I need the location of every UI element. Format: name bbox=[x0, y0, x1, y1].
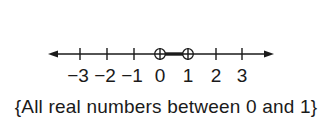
tick-label-1: 1 bbox=[183, 65, 194, 86]
tick-label-neg2: −2 bbox=[94, 65, 116, 86]
tick-label-2: 2 bbox=[211, 65, 222, 86]
right-arrow-icon bbox=[264, 51, 274, 58]
set-description-caption: {All real numbers between 0 and 1} bbox=[0, 96, 332, 118]
tick-label-3: 3 bbox=[237, 65, 248, 86]
tick-label-neg3: −3 bbox=[67, 65, 89, 86]
tick-label-0: 0 bbox=[155, 65, 166, 86]
left-arrow-icon bbox=[48, 51, 58, 58]
tick-label-neg1: −1 bbox=[121, 65, 143, 86]
